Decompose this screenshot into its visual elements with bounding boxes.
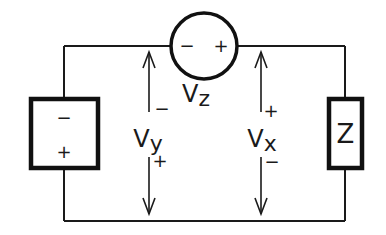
left-source-top-polarity: −: [56, 107, 71, 128]
right-impedance: Z: [329, 99, 362, 168]
vx-measurement: + Vx −: [247, 52, 279, 214]
vy-bottom-polarity: +: [152, 150, 167, 171]
vx-label-main: V: [247, 125, 264, 153]
vz-label-sub: z: [198, 86, 210, 111]
vz-label-main: V: [182, 80, 199, 108]
top-source-left-polarity: −: [179, 35, 194, 56]
vy-top-polarity: −: [154, 98, 169, 119]
vy-measurement: − Vy +: [133, 52, 169, 214]
top-source-right-polarity: +: [213, 35, 228, 56]
left-source-bottom-polarity: +: [56, 141, 71, 162]
vx-bottom-polarity: −: [264, 151, 279, 172]
circuit-diagram: − + − + Vz Z − Vy + + Vx −: [0, 0, 386, 235]
left-voltage-source: − +: [31, 99, 98, 168]
vx-top-polarity: +: [263, 100, 278, 121]
top-voltage-source: − + Vz: [171, 13, 237, 111]
vz-label: Vz: [182, 80, 210, 111]
impedance-label: Z: [337, 119, 355, 149]
vy-label-main: V: [133, 125, 150, 153]
